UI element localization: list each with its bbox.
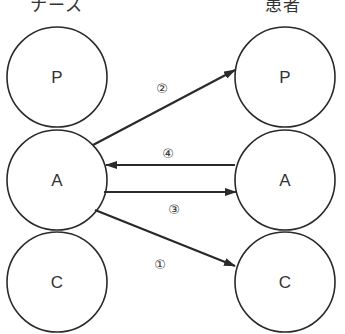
node-label: C	[51, 273, 63, 292]
arrow-4-patientA-to-nurseA: ④	[106, 146, 235, 165]
patient-child-node: C	[235, 232, 335, 332]
node-label: P	[279, 68, 290, 87]
node-label: C	[279, 273, 291, 292]
arrow-1-nurseA-to-patientC: ①	[95, 210, 235, 272]
step-label: ①	[154, 257, 166, 272]
node-label: A	[279, 171, 291, 190]
patient-column-title: 患者	[265, 0, 301, 16]
nurse-adult-node: A	[7, 130, 107, 230]
patient-parent-node: P	[235, 27, 335, 127]
arrow-2-nurseA-to-patientP: ②	[93, 70, 235, 145]
step-label: ③	[168, 202, 180, 217]
transaction-diagram: ナース 患者 P A C P A	[0, 0, 345, 334]
arrow-3-nurseA-to-patientA: ③	[104, 192, 236, 217]
step-label: ④	[162, 146, 174, 161]
node-label: P	[51, 68, 62, 87]
nurse-column-title: ナース	[30, 0, 83, 16]
nurse-parent-node: P	[7, 27, 107, 127]
nurse-child-node: C	[7, 232, 107, 332]
patient-adult-node: A	[235, 130, 335, 230]
diagram-canvas: P A C P A C ② ④	[0, 0, 345, 334]
step-label: ②	[156, 81, 168, 96]
node-label: A	[51, 171, 63, 190]
